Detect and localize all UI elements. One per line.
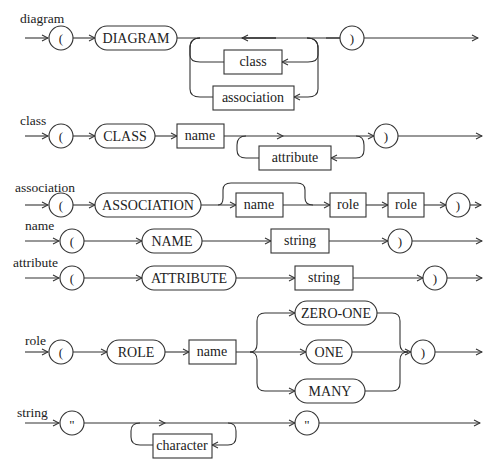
svg-text:name: name — [244, 197, 274, 212]
keyword-role: ROLE — [107, 340, 165, 364]
rule-label: name — [25, 218, 54, 233]
nonterminal-role-1: role — [330, 193, 366, 217]
svg-text:MANY: MANY — [309, 384, 352, 399]
svg-text:): ) — [433, 271, 437, 286]
nonterminal-string: string — [271, 229, 329, 253]
terminal-open-quote: " — [60, 411, 84, 435]
terminal-close-paren: ) — [446, 193, 470, 217]
keyword-name: NAME — [142, 229, 202, 253]
nonterminal-name-optional: name — [236, 193, 283, 217]
rule-string: string " character " — [17, 405, 480, 458]
terminal-open-paren: ( — [49, 340, 73, 364]
svg-text:(: ( — [70, 234, 74, 249]
svg-text:): ) — [398, 234, 402, 249]
svg-text:role: role — [337, 197, 359, 212]
nonterminal-attribute: attribute — [259, 146, 331, 170]
svg-text:(: ( — [59, 129, 63, 144]
terminal-open-paren: ( — [49, 26, 73, 50]
rule-label: attribute — [13, 255, 58, 270]
svg-text:string: string — [308, 270, 340, 285]
nonterminal-class: class — [224, 50, 282, 74]
rule-class: class ( CLASS name attribute ) — [20, 113, 482, 170]
svg-text:string: string — [284, 233, 316, 248]
svg-text:character: character — [156, 438, 208, 453]
keyword-association: ASSOCIATION — [95, 193, 201, 217]
svg-text:): ) — [456, 198, 460, 213]
terminal-close-paren: ) — [374, 124, 398, 148]
svg-text:NAME: NAME — [151, 234, 192, 249]
svg-text:CLASS: CLASS — [103, 129, 147, 144]
rule-diagram: diagram ( DIAGRAM class association — [20, 11, 478, 110]
rule-label: class — [20, 113, 46, 128]
svg-text:ATTRIBUTE: ATTRIBUTE — [151, 271, 227, 286]
nonterminal-name: name — [177, 124, 224, 148]
rule-label: role — [25, 333, 46, 348]
svg-text:role: role — [395, 197, 417, 212]
keyword-attribute: ATTRIBUTE — [142, 266, 236, 290]
svg-text:attribute: attribute — [272, 150, 319, 165]
svg-text:association: association — [222, 90, 284, 105]
svg-text:(: ( — [70, 271, 74, 286]
svg-text:(: ( — [59, 345, 63, 360]
svg-text:ONE: ONE — [315, 345, 344, 360]
nonterminal-role-2: role — [388, 193, 424, 217]
svg-text:ROLE: ROLE — [118, 345, 155, 360]
keyword-zero-one: ZERO-ONE — [295, 301, 377, 325]
rule-label: string — [17, 405, 48, 420]
svg-text:name: name — [185, 128, 215, 143]
terminal-close-paren: ) — [411, 340, 435, 364]
terminal-close-quote: " — [295, 411, 319, 435]
rule-label: association — [15, 180, 75, 195]
svg-text:(: ( — [59, 198, 63, 213]
rule-label: diagram — [20, 11, 65, 26]
keyword-many: MANY — [295, 379, 365, 403]
nonterminal-character: character — [153, 434, 212, 458]
keyword-diagram: DIAGRAM — [95, 26, 177, 50]
svg-text:): ) — [350, 31, 354, 46]
rule-association: association ( ASSOCIATION name role role — [15, 180, 481, 217]
svg-text:name: name — [197, 344, 227, 359]
svg-text:class: class — [239, 54, 266, 69]
terminal-close-paren: ) — [423, 266, 447, 290]
svg-text:ASSOCIATION: ASSOCIATION — [102, 198, 194, 213]
keyword-one: ONE — [306, 340, 352, 364]
rule-role: role ( ROLE name ZERO-ONE ONE MANY — [25, 301, 482, 403]
keyword-class: CLASS — [95, 124, 155, 148]
nonterminal-name: name — [189, 340, 236, 364]
terminal-open-paren: ( — [60, 229, 84, 253]
svg-text:): ) — [421, 345, 425, 360]
nonterminal-string: string — [295, 266, 353, 290]
rule-attribute: attribute ( ATTRIBUTE string ) — [13, 255, 482, 290]
svg-text:ZERO-ONE: ZERO-ONE — [301, 306, 371, 321]
svg-text:(: ( — [59, 31, 63, 46]
terminal-open-paren: ( — [60, 266, 84, 290]
terminal-close-paren: ) — [388, 229, 412, 253]
rule-name: name ( NAME string ) — [25, 218, 482, 253]
svg-text:): ) — [384, 129, 388, 144]
terminal-open-paren: ( — [49, 193, 73, 217]
svg-text:": " — [69, 417, 74, 432]
svg-text:": " — [304, 417, 309, 432]
syntax-diagram: diagram ( DIAGRAM class association — [0, 0, 498, 474]
terminal-open-paren: ( — [49, 124, 73, 148]
svg-text:DIAGRAM: DIAGRAM — [103, 31, 170, 46]
nonterminal-association: association — [213, 86, 294, 110]
terminal-close-paren: ) — [340, 26, 364, 50]
